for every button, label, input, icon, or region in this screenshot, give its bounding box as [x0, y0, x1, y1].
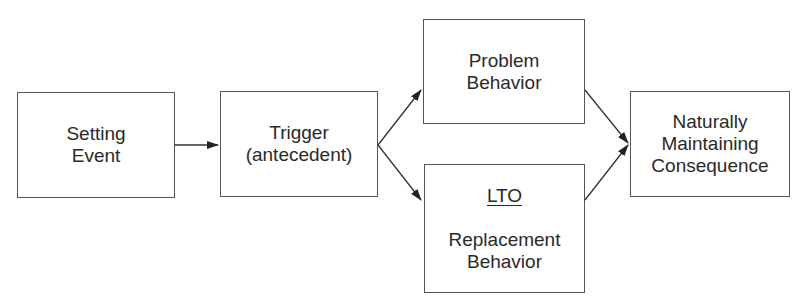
node-label-line: Naturally: [673, 111, 748, 133]
node-problem-behavior: Problem Behavior: [423, 19, 585, 124]
node-label-line: Replacement: [449, 229, 561, 251]
node-label-line: Setting: [66, 123, 125, 145]
node-label-line: Consequence: [651, 155, 768, 177]
node-label-line: Maintaining: [661, 133, 758, 155]
node-label-line: Behavior: [467, 72, 542, 94]
node-replacement-behavior: LTO Replacement Behavior: [424, 164, 585, 293]
node-label-line: Trigger: [269, 122, 328, 144]
node-trigger: Trigger (antecedent): [220, 91, 378, 197]
node-label-line: Event: [72, 145, 121, 167]
node-label-line: (antecedent): [246, 144, 353, 166]
node-label-line: Behavior: [467, 251, 542, 273]
arrow-trigger-to-replacement: [378, 145, 421, 200]
arrow-trigger-to-problem: [378, 90, 421, 145]
arrow-problem-to-consequence: [585, 90, 628, 143]
node-label-line: Problem: [469, 50, 540, 72]
node-setting-event: Setting Event: [17, 92, 175, 198]
node-consequence: Naturally Maintaining Consequence: [630, 91, 790, 197]
arrow-replacement-to-consequence: [585, 145, 628, 200]
lto-label: LTO: [487, 185, 522, 207]
